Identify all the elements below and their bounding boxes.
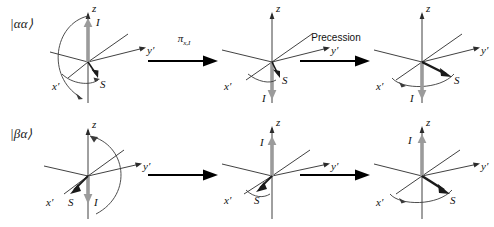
x-axis-label: x′ (223, 194, 232, 206)
z-arrowhead (86, 12, 91, 19)
panel-alpha-alpha-after-precession: z y′ x′ I S (362, 0, 494, 113)
x-axis-back (222, 50, 272, 62)
arc-arrowhead (90, 136, 98, 143)
y-arrowhead (473, 47, 480, 52)
axis-frame (374, 14, 478, 103)
s-arrowhead (438, 184, 450, 194)
z-axis-label: z (425, 2, 431, 14)
x-axis-back (44, 166, 88, 176)
x-axis-front (396, 176, 422, 194)
ellipse-arc (62, 74, 98, 83)
y-axis-label: y′ (480, 160, 489, 172)
x-axis-label: x′ (45, 196, 54, 208)
transition-arrow-precession: Precession (300, 34, 372, 74)
s-arrowhead (273, 70, 280, 79)
z-axis-label: z (91, 2, 97, 14)
z-arrowhead (270, 126, 275, 133)
diagram-row-alpha-alpha: |αα⟩ (0, 0, 486, 113)
y-arrowhead (139, 47, 146, 52)
s-vector-label: S (282, 74, 288, 86)
transition-arrow-row1-first (148, 162, 220, 202)
i-vector-label: I (95, 16, 101, 28)
z-axis-label: z (275, 116, 281, 128)
x-axis-back (374, 50, 422, 62)
i-arrowhead (418, 134, 427, 143)
y-axis (88, 48, 144, 62)
i-arrowhead (84, 194, 93, 204)
i-vector-label: I (93, 196, 99, 208)
transition-arrow-row1-second (300, 162, 372, 202)
y-arrowhead (473, 163, 480, 168)
i-arrowhead (268, 90, 277, 100)
s-vector-label: S (254, 194, 260, 206)
arc-arrowhead (76, 94, 83, 100)
y-axis (422, 48, 478, 62)
x-axis-front (246, 62, 272, 80)
s-arrowhead (440, 68, 452, 77)
i-arrowhead (268, 136, 277, 145)
i-arrowhead (84, 18, 93, 27)
z-axis-label: z (275, 2, 281, 14)
x-axis-label: x′ (51, 80, 60, 92)
x-axis-label: x′ (375, 80, 384, 92)
x-axis-back (50, 52, 88, 62)
z-axis-label: z (425, 116, 431, 128)
i-vector-label: I (261, 92, 267, 104)
y-arrowhead (135, 163, 142, 168)
i-vector-label: I (259, 136, 265, 148)
s-arrowhead (92, 70, 99, 79)
i-vector-label: I (407, 134, 413, 146)
z-arrowhead (420, 126, 425, 133)
transition-label-pi-pulse: πx,I (178, 32, 191, 47)
transition-arrow-pi-pulse: πx,I (148, 34, 220, 74)
diagonal-axis-back (422, 34, 462, 62)
diagonal-axis-back (88, 34, 128, 62)
diagram-row-beta-alpha: |βα⟩ z y′ (0, 114, 486, 227)
axis-frame (44, 130, 140, 219)
x-axis-front (396, 62, 422, 80)
axis-frame (374, 128, 478, 219)
z-arrowhead (420, 12, 425, 19)
s-vector-label: S (450, 194, 456, 206)
ellipse-arrowhead (399, 198, 406, 204)
z-arrowhead (270, 12, 275, 19)
z-arrowhead (86, 128, 91, 135)
y-axis-label: y′ (480, 44, 489, 56)
s-vector-label: S (100, 78, 106, 90)
transition-label-precession: Precession (311, 32, 360, 43)
x-axis-back (222, 164, 272, 176)
x-axis-label: x′ (375, 196, 384, 208)
i-arrowhead (418, 90, 427, 100)
i-vector-label: I (409, 92, 415, 104)
x-axis-front (68, 62, 88, 78)
precession-arc (58, 16, 88, 97)
x-axis-back (374, 164, 422, 176)
z-axis-label: z (91, 118, 97, 130)
s-vector-label: S (454, 74, 460, 86)
x-axis-label: x′ (223, 80, 232, 92)
panel-beta-alpha-after-precession: z y′ x′ I S (362, 114, 494, 227)
s-vector-label: S (68, 196, 74, 208)
